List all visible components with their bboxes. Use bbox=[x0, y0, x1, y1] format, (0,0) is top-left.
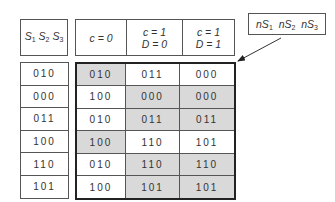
pointer-arrow-icon bbox=[0, 0, 335, 202]
